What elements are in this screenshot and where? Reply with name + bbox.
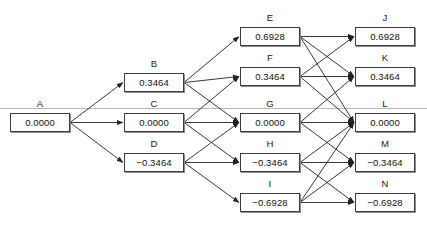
node-value-box: 0.6928 (355, 27, 415, 46)
node-letter-label: C (124, 99, 184, 109)
edge-b-to-f (184, 77, 239, 83)
node-value-text: 0.0000 (139, 118, 169, 128)
node-a: A0.0000 (10, 99, 70, 132)
node-letter-label: D (124, 139, 184, 149)
node-value-box: 0.3464 (124, 73, 184, 92)
node-value-box: 0.6928 (240, 27, 300, 46)
node-value-text: 0.0000 (25, 118, 55, 128)
node-letter-label: B (124, 59, 184, 69)
edge-b-to-e (184, 37, 239, 83)
node-value-box: −0.6928 (355, 193, 415, 212)
node-value-text: 0.3464 (139, 78, 169, 88)
node-h: H−0.3464 (240, 139, 300, 172)
node-k: K0.3464 (355, 53, 415, 86)
node-value-box: −0.3464 (124, 153, 184, 172)
edge-group (70, 37, 354, 203)
node-letter-label: I (240, 179, 300, 189)
node-value-text: 0.0000 (370, 118, 400, 128)
node-f: F0.3464 (240, 53, 300, 86)
node-letter-label: H (240, 139, 300, 149)
node-letter-label: L (355, 99, 415, 109)
node-letter-label: E (240, 13, 300, 23)
node-letter-label: K (355, 53, 415, 63)
node-value-box: 0.0000 (124, 113, 184, 132)
node-l: L0.0000 (355, 99, 415, 132)
edge-e-to-l (300, 37, 354, 123)
node-letter-label: G (240, 99, 300, 109)
node-value-box: 0.0000 (240, 113, 300, 132)
node-value-text: 0.0000 (255, 118, 285, 128)
node-b: B0.3464 (124, 59, 184, 92)
node-c: C0.0000 (124, 99, 184, 132)
node-letter-label: M (355, 139, 415, 149)
node-letter-label: N (355, 179, 415, 189)
node-letter-label: J (355, 13, 415, 23)
node-value-box: 0.0000 (10, 113, 70, 132)
edge-a-to-d (70, 123, 123, 163)
node-value-box: −0.3464 (240, 153, 300, 172)
edge-a-to-b (70, 83, 123, 123)
node-value-box: −0.6928 (240, 193, 300, 212)
node-value-text: 0.6928 (370, 32, 400, 42)
node-value-box: −0.3464 (355, 153, 415, 172)
node-i: I−0.6928 (240, 179, 300, 212)
node-letter-label: A (10, 99, 70, 109)
node-e: E0.6928 (240, 13, 300, 46)
node-value-box: 0.0000 (355, 113, 415, 132)
node-value-box: 0.3464 (355, 67, 415, 86)
node-value-text: −0.6928 (367, 198, 402, 208)
node-value-text: −0.6928 (252, 198, 287, 208)
node-value-text: 0.3464 (370, 72, 400, 82)
node-d: D−0.3464 (124, 139, 184, 172)
node-g: G0.0000 (240, 99, 300, 132)
node-m: M−0.3464 (355, 139, 415, 172)
edge-c-to-f (184, 77, 239, 123)
trinomial-tree-diagram: A0.0000B0.3464C0.0000D−0.3464E0.6928F0.3… (0, 0, 427, 238)
node-value-text: −0.3464 (252, 158, 287, 168)
node-j: J0.6928 (355, 13, 415, 46)
node-value-text: −0.3464 (136, 158, 171, 168)
node-value-text: −0.3464 (367, 158, 402, 168)
node-value-box: 0.3464 (240, 67, 300, 86)
node-letter-label: F (240, 53, 300, 63)
node-value-text: 0.3464 (255, 72, 285, 82)
node-n: N−0.6928 (355, 179, 415, 212)
edge-d-to-i (184, 163, 239, 203)
node-value-text: 0.6928 (255, 32, 285, 42)
edge-b-to-g (184, 83, 239, 123)
